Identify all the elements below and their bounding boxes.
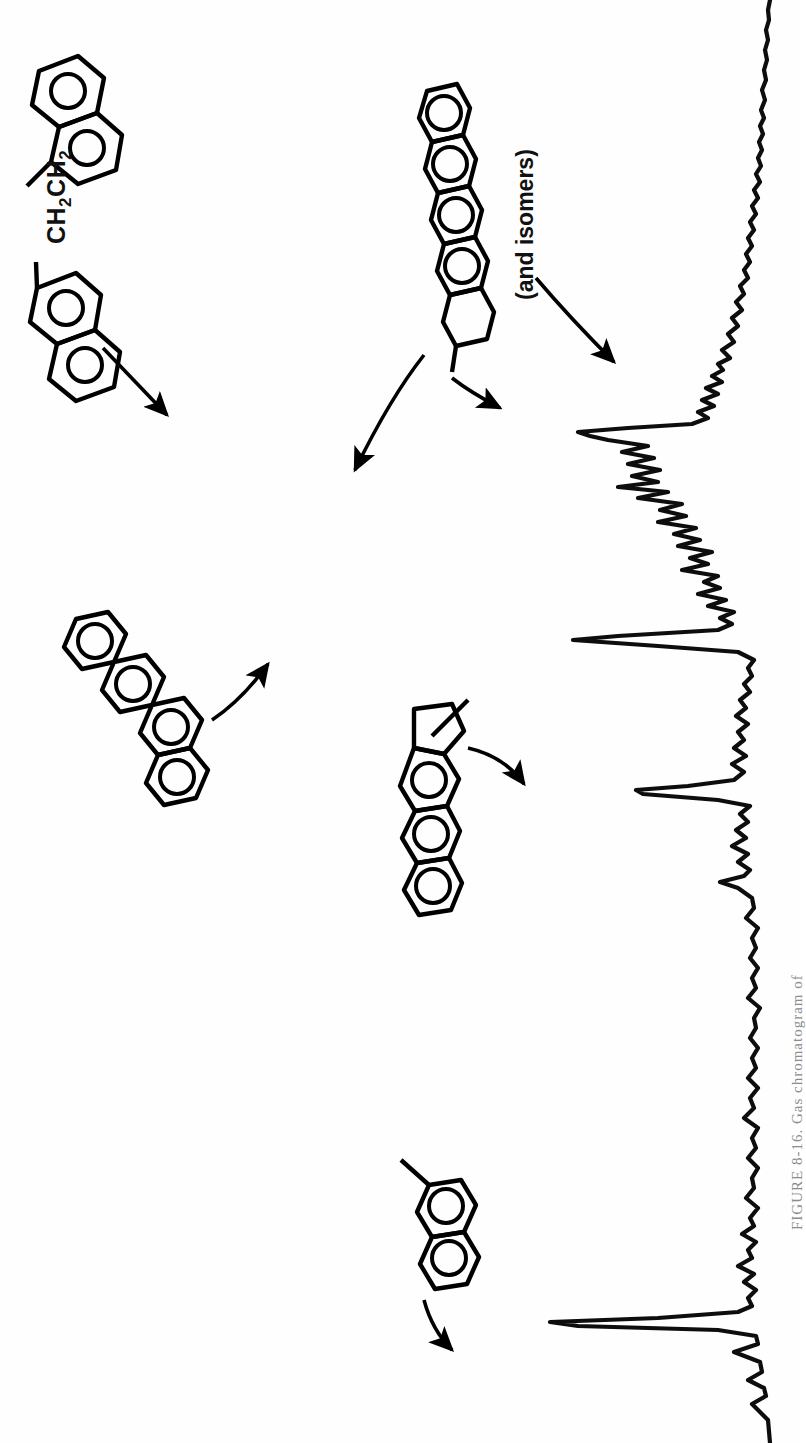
pointer-arrow-pentacyclic	[355, 355, 424, 470]
pointer-arrow-dinaphthylethane	[103, 348, 167, 415]
structure-methylnaphthalene	[401, 1160, 479, 1289]
pointer-arrow-pentacyclic-tail	[452, 378, 500, 408]
side-chain-sub-1: 2	[56, 197, 75, 207]
side-chain-label-pre: CH	[42, 207, 70, 244]
naphthalene-ring-lower	[30, 262, 120, 401]
structure-methyl-cyclopenta-anthracene	[400, 700, 468, 915]
side-chain-label: CH2CH2	[42, 150, 76, 244]
side-chain-label-mid: CH	[42, 160, 70, 197]
isomers-note: (and isomers)	[512, 149, 539, 300]
structure-chrysene	[64, 612, 208, 805]
figure-caption: FIGURE 8-16. Gas chromatogram of	[789, 974, 806, 1230]
pointer-arrow-methylanthracene	[468, 748, 524, 784]
pointer-arrow-methylnaphthalene	[424, 1300, 452, 1350]
pointer-arrow-chrysene	[212, 664, 268, 720]
structure-pentacyclic-pah	[419, 84, 494, 372]
side-chain-sub-2: 2	[56, 150, 75, 160]
pointer-arrow-isomers	[536, 278, 614, 362]
